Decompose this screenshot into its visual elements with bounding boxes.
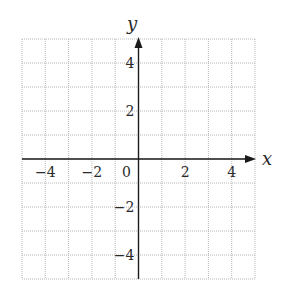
- y-axis-label: y: [126, 13, 138, 34]
- x-axis-arrow-icon: [245, 155, 256, 163]
- x-tick-label: −4: [35, 164, 56, 180]
- coordinate-plane: −4−202442−2−4 x y: [0, 0, 284, 287]
- y-tick-label: −2: [114, 199, 135, 215]
- x-axis-label: x: [262, 148, 272, 169]
- y-axis-arrow-icon: [135, 37, 143, 48]
- x-tick-label: 2: [181, 164, 190, 180]
- x-tick-label: −2: [82, 164, 103, 180]
- y-tick-label: 4: [126, 55, 135, 71]
- x-tick-label: 4: [227, 164, 236, 180]
- axes: [22, 37, 256, 279]
- x-tick-label: 0: [122, 164, 131, 180]
- y-tick-label: −4: [114, 247, 135, 263]
- y-tick-label: 2: [126, 103, 135, 119]
